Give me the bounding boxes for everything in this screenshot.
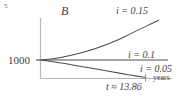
y-axis-tick-label: 1000: [8, 55, 30, 66]
curve-rate-005: [41, 60, 145, 78]
t-value-annotation: t ≈ 13.86: [106, 82, 142, 92]
curve-label-rate-015: i = 0.15: [116, 6, 148, 16]
curve-label-rate-01: i = 0.1: [128, 50, 155, 60]
y-axis-label: B: [61, 5, 68, 17]
x-axis-label: years: [153, 74, 170, 82]
figure-container: 5 B 1000 i = 0.15 i = 0.1 i = 0.05 years…: [0, 0, 191, 96]
figure-number: 5: [4, 3, 8, 10]
